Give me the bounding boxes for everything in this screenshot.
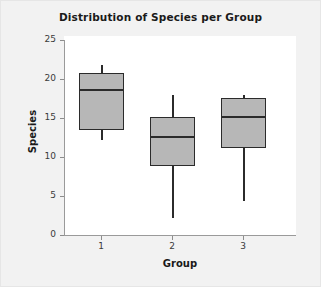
- x-axis-line: [64, 235, 296, 236]
- median-line: [150, 136, 195, 138]
- x-tick-mark: [243, 236, 244, 240]
- whisker-lower: [101, 130, 103, 140]
- whisker-lower: [172, 166, 174, 217]
- y-axis-line: [64, 40, 65, 235]
- x-tick-label: 1: [86, 241, 116, 251]
- y-tick-label: 25: [30, 34, 56, 44]
- chart-title: Distribution of Species per Group: [0, 11, 321, 23]
- x-tick-mark: [172, 236, 173, 240]
- whisker-upper: [172, 95, 174, 117]
- y-tick-label: 10: [30, 151, 56, 161]
- y-tick-label: 20: [30, 73, 56, 83]
- box-rect: [150, 117, 195, 166]
- box-rect: [221, 98, 266, 148]
- x-tick-label: 3: [228, 241, 258, 251]
- whisker-upper: [101, 65, 103, 73]
- median-line: [221, 116, 266, 118]
- chart-canvas: Distribution of Species per Group Specie…: [0, 0, 321, 287]
- box-rect: [79, 73, 124, 130]
- y-tick-mark: [60, 196, 64, 197]
- y-tick-mark: [60, 40, 64, 41]
- y-tick-label: 0: [30, 229, 56, 239]
- median-line: [79, 89, 124, 91]
- y-tick-label: 15: [30, 112, 56, 122]
- y-tick-mark: [60, 235, 64, 236]
- y-tick-mark: [60, 118, 64, 119]
- x-axis-label: Group: [64, 258, 296, 269]
- y-tick-label: 5: [30, 190, 56, 200]
- y-tick-mark: [60, 79, 64, 80]
- y-tick-mark: [60, 157, 64, 158]
- whisker-lower: [243, 148, 245, 201]
- x-tick-label: 2: [157, 241, 187, 251]
- x-tick-mark: [101, 236, 102, 240]
